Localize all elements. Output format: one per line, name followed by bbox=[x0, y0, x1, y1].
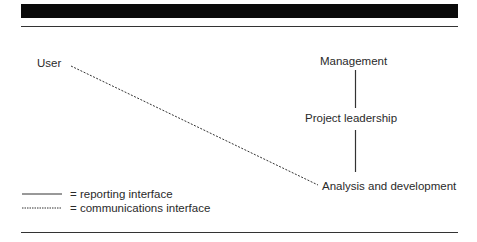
node-analysis-and-development: Analysis and development bbox=[322, 180, 456, 193]
bottom-rule bbox=[21, 232, 458, 233]
node-management: Management bbox=[320, 55, 387, 68]
node-user: User bbox=[37, 57, 61, 70]
legend-reporting-label: = reporting interface bbox=[70, 188, 173, 201]
legend-communications-label: = communications interface bbox=[70, 202, 210, 215]
communications-connector bbox=[71, 66, 318, 185]
node-project-leadership: Project leadership bbox=[305, 112, 397, 125]
